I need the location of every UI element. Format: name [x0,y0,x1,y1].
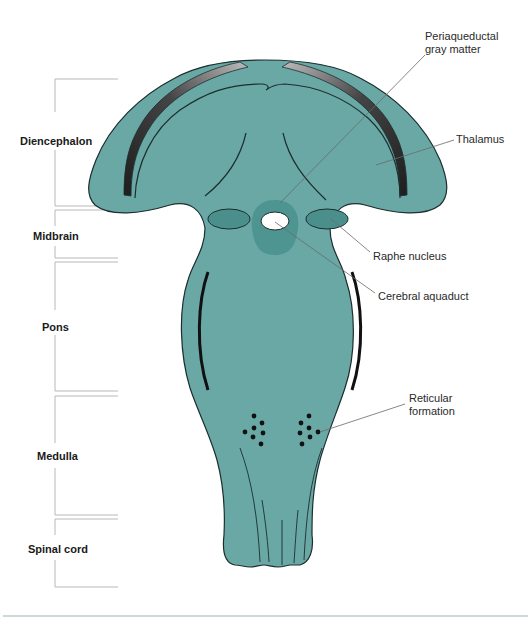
callout-periaqueductal-line2: gray matter [425,43,481,55]
bracket-pons: Pons [42,262,118,391]
region-label-midbrain: Midbrain [33,230,79,242]
raphe-nucleus-right [306,209,348,229]
callout-aqueduct-label: Cerebral aquaduct [378,290,469,302]
raphe-nucleus-left [208,209,250,229]
callout-periaqueductal-line1: Periaqueductal [425,30,498,42]
cerebral-aqueduct [261,212,289,230]
brainstem-diagram: Diencephalon Midbrain Pons Medulla Spina… [0,0,531,620]
region-label-medulla: Medulla [37,450,79,462]
brainstem [89,60,447,567]
region-label-pons: Pons [42,321,69,333]
callout-raphe: Raphe nucleus [331,219,447,262]
region-label-diencephalon: Diencephalon [20,135,92,147]
bracket-medulla: Medulla [37,396,118,515]
callout-reticular-line2: formation [409,405,455,417]
callout-thalamus-label: Thalamus [456,133,505,145]
callout-reticular-line1: Reticular [409,392,453,404]
bracket-midbrain: Midbrain [33,210,118,258]
region-label-spinal-cord: Spinal cord [28,543,88,555]
callout-raphe-label: Raphe nucleus [373,250,447,262]
bracket-spinal-cord: Spinal cord [28,519,118,587]
